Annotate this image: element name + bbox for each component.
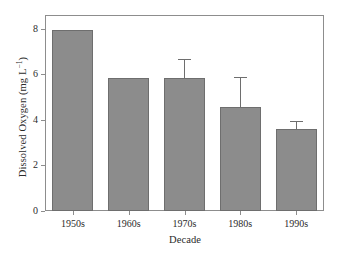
error-bar-stem (296, 121, 297, 129)
error-bar-stem (184, 59, 185, 77)
bar-1960s (108, 78, 149, 211)
x-tick-1950s: 1950s (73, 211, 74, 215)
bar-1970s (164, 78, 205, 211)
y-tick-6: 6 (0, 74, 45, 75)
y-tick-mark (41, 29, 45, 30)
y-tick-label: 2 (33, 157, 38, 172)
x-tick-label: 1990s (266, 218, 326, 229)
y-axis-title-text: Dissolved Oxygen (mg L (17, 69, 28, 178)
y-tick-label: 6 (33, 66, 38, 81)
x-tick-label: 1980s (210, 218, 270, 229)
y-axis-title: Dissolved Oxygen (mg L−1) (16, 12, 30, 222)
y-tick-mark (41, 120, 45, 121)
x-tick-mark (185, 211, 186, 215)
bar-chart-figure: Dissolved Oxygen (mg L−1) Decade 02468 1… (0, 0, 345, 263)
x-tick-label: 1970s (155, 218, 215, 229)
x-tick-mark (240, 211, 241, 215)
y-tick-label: 8 (33, 21, 38, 36)
x-tick-1980s: 1980s (240, 211, 241, 215)
x-tick-mark (296, 211, 297, 215)
x-tick-mark (129, 211, 130, 215)
y-tick-4: 4 (0, 120, 45, 121)
x-tick-1960s: 1960s (129, 211, 130, 215)
y-tick-2: 2 (0, 165, 45, 166)
x-tick-1990s: 1990s (296, 211, 297, 215)
x-tick-label: 1960s (99, 218, 159, 229)
bar-1990s (276, 129, 317, 211)
y-axis-title-superscript: −1 (15, 60, 24, 68)
error-bar-cap (234, 77, 247, 78)
y-tick-mark (41, 211, 45, 212)
x-axis-title: Decade (45, 234, 325, 245)
x-tick-mark (73, 211, 74, 215)
y-tick-mark (41, 165, 45, 166)
x-tick-label: 1950s (43, 218, 103, 229)
y-tick-8: 8 (0, 29, 45, 30)
error-bar-1990s (286, 121, 306, 129)
error-bar-1970s (175, 59, 195, 77)
y-tick-0: 0 (0, 211, 45, 212)
y-tick-label: 0 (33, 203, 38, 218)
y-axis-title-tail: ) (17, 57, 28, 61)
x-tick-1970s: 1970s (185, 211, 186, 215)
error-bar-stem (240, 77, 241, 108)
y-tick-label: 4 (33, 112, 38, 127)
error-bar-1980s (230, 77, 250, 108)
error-bar-cap (178, 59, 191, 60)
error-bar-cap (290, 121, 303, 122)
y-tick-mark (41, 74, 45, 75)
bar-1950s (52, 30, 93, 211)
bar-1980s (220, 107, 261, 211)
